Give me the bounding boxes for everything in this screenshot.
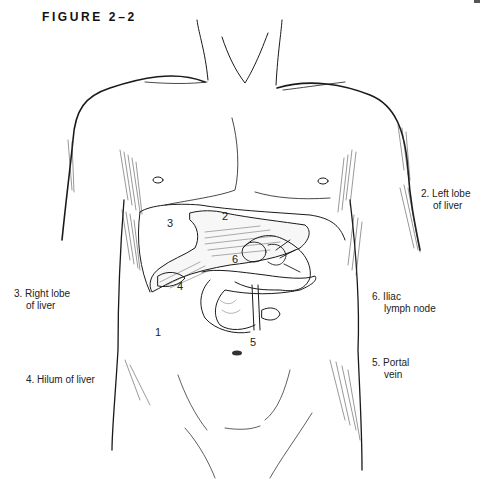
marker-3: 3 (167, 217, 173, 229)
legend-portal-vein: 5. Portal vein (372, 357, 409, 381)
flank-hatching (68, 125, 420, 440)
liver (150, 211, 309, 292)
nipples (153, 177, 328, 184)
legend-left-lobe: 2. Left lobe of liver (421, 188, 470, 212)
legend-hilum: 4. Hilum of liver (26, 374, 95, 386)
body-outline (62, 76, 420, 470)
legend-hilum-line1: 4. Hilum of liver (26, 374, 95, 385)
legend-iliac-node-line1: 6. Iliac (372, 291, 401, 302)
chest-lines (165, 118, 330, 205)
marker-2: 2 (222, 210, 228, 222)
torso-illustration (0, 0, 488, 502)
legend-right-lobe: 3. Right lobe of liver (14, 288, 70, 312)
neck-outline (197, 20, 282, 85)
abdomen-lines (178, 370, 312, 478)
legend-left-lobe-line1: 2. Left lobe (421, 188, 470, 199)
legend-left-lobe-line2: of liver (421, 200, 470, 212)
legend-right-lobe-line1: 3. Right lobe (14, 288, 70, 299)
pancreas-texture (220, 300, 240, 313)
legend-portal-vein-line1: 5. Portal (372, 357, 409, 368)
marker-4: 4 (177, 280, 183, 292)
legend-iliac-node: 6. Iliac lymph node (372, 291, 436, 315)
marker-5: 5 (250, 336, 256, 348)
legend-portal-vein-line2: vein (372, 369, 409, 381)
marker-6: 6 (232, 253, 238, 265)
navel (232, 351, 242, 356)
marker-1: 1 (155, 326, 161, 338)
legend-iliac-node-line2: lymph node (372, 303, 436, 315)
legend-right-lobe-line2: of liver (14, 300, 70, 312)
